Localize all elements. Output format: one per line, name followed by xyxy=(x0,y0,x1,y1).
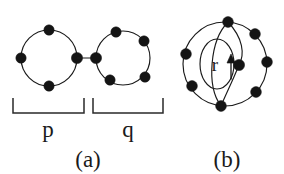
graph-figure: p q r xyxy=(0,0,284,174)
cycle-q-vertex xyxy=(139,36,149,46)
cycle-p-vertex xyxy=(44,25,54,35)
cycle-q-vertex xyxy=(111,27,121,37)
label-p: p xyxy=(42,117,54,142)
figure-container: p q r xyxy=(0,0,284,174)
cycle-q-junction-vertex xyxy=(90,52,101,63)
cycle-q-vertex xyxy=(105,75,115,85)
cycle-r-vertex xyxy=(223,17,234,28)
cycle-r-vertex xyxy=(187,81,198,92)
label-r: r xyxy=(212,54,219,75)
cycle-r-vertex xyxy=(216,101,227,112)
cycle-q-vertex xyxy=(140,72,150,82)
cycle-p-vertex xyxy=(44,81,54,91)
cycle-r-vertex xyxy=(251,87,262,98)
figure-background xyxy=(0,0,284,174)
cycle-r-vertex xyxy=(262,57,273,68)
caption-a: (a) xyxy=(75,147,101,172)
cycle-p-vertex xyxy=(16,53,26,63)
cycle-r-vertex xyxy=(250,29,261,40)
label-q: q xyxy=(122,117,134,142)
cycle-r-inner-vertex xyxy=(233,59,244,70)
caption-b: (b) xyxy=(214,147,241,172)
cycle-r-vertex xyxy=(181,49,192,60)
